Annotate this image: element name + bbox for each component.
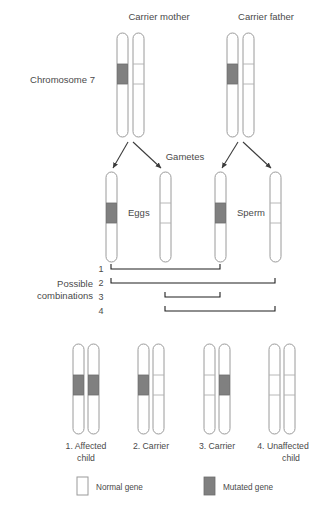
legend-swatch-mutated-gene — [204, 477, 215, 495]
offspring-2-chromosomes — [138, 344, 164, 434]
mutated-band — [118, 64, 128, 84]
combination-number-1: 1 — [98, 264, 103, 274]
offspring-label-4-line1: 4. Unaffected — [257, 441, 309, 451]
offspring-label-1-line1: 1. Affected — [66, 441, 107, 451]
combination-number-2: 2 — [98, 278, 103, 288]
gamete-sperm-mutated — [215, 172, 226, 262]
combination-bracket-3 — [165, 292, 220, 297]
offspring-label-2-line1: 2. Carrier — [133, 441, 169, 451]
combination-number-4: 4 — [98, 306, 103, 316]
legend-label-mutated-gene: Mutated gene — [223, 483, 274, 492]
label-gametes: Gametes — [166, 151, 205, 162]
combination-bracket-1 — [111, 264, 220, 269]
label-possible-line1: Possible — [57, 278, 93, 289]
legend: Normal gene Mutated gene — [77, 477, 274, 495]
label-chromosome-7: Chromosome 7 — [30, 74, 95, 85]
label-sperm: Sperm — [237, 207, 265, 218]
label-possible-line2: combinations — [37, 290, 93, 301]
legend-swatch-normal-gene — [77, 477, 88, 495]
combination-bracket-2 — [111, 278, 275, 283]
combination-number-3: 3 — [98, 292, 103, 302]
offspring-4-chromosomes — [269, 344, 295, 434]
label-carrier-mother: Carrier mother — [128, 11, 189, 22]
label-eggs: Eggs — [128, 207, 150, 218]
combination-bracket-4 — [165, 306, 275, 311]
mutated-band — [228, 64, 238, 84]
offspring-3-chromosomes — [204, 344, 230, 434]
parent-father-chromosomes — [227, 33, 254, 137]
gamete-sperm-normal — [270, 172, 281, 262]
label-carrier-father: Carrier father — [238, 11, 294, 22]
offspring-1-chromosomes — [73, 344, 99, 434]
offspring-label-1-line2: child — [77, 453, 95, 463]
offspring-label-4-line2: child — [282, 453, 300, 463]
parent-mother-chromosomes — [117, 33, 144, 137]
offspring-label-3-line1: 3. Carrier — [199, 441, 235, 451]
gamete-egg-mutated — [106, 172, 117, 262]
inheritance-diagram: Carrier mother Carrier father Chromosome… — [0, 0, 334, 508]
gamete-egg-normal — [160, 172, 171, 262]
legend-label-normal-gene: Normal gene — [96, 483, 143, 492]
